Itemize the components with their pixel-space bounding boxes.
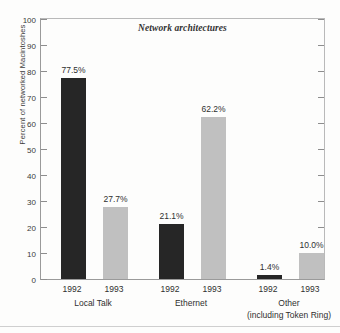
y-tick-right-60 [318,123,324,124]
y-tick-right-100 [318,19,324,20]
y-tick-80: 80 [41,71,47,72]
group-label-text: Ethernet [175,298,207,308]
x-axis-year-local-talk-1993: 1993 [105,284,124,294]
bar-value-label: 77.5% [61,65,85,75]
bar-ethernet-1993: 62.2% [201,117,226,279]
y-tick-right-20 [318,227,324,228]
y-tick-label-0: 0 [32,276,36,285]
group-label-text: Local Talk [74,298,112,308]
x-axis-group-local-talk: Local Talk [74,298,112,310]
bar-local-talk-1993: 27.7% [103,207,128,279]
page-rule-divider [0,326,340,327]
bar-value-label: 10.0% [299,240,323,250]
bar-ethernet-1992: 21.1% [159,224,184,279]
group-label-text: Other [278,298,299,308]
plot-area: Network architectures 100 90 80 70 60 50… [40,18,325,280]
y-tick-100: 100 [41,19,47,20]
bar-other-1993: 10.0% [299,253,324,279]
y-tick-label-50: 50 [27,146,36,155]
bar-chart-figure: Percent of networked Macintoshes Network… [0,0,340,333]
x-axis-year-other-1992: 1992 [259,284,278,294]
bar-value-label: 21.1% [159,211,183,221]
y-tick-label-100: 100 [23,16,36,25]
y-tick-label-90: 90 [27,42,36,51]
y-tick-20: 20 [41,227,47,228]
y-tick-label-30: 30 [27,198,36,207]
bar-local-talk-1992: 77.5% [61,78,86,280]
bar-value-label: 1.4% [260,262,279,272]
y-tick-label-70: 70 [27,94,36,103]
bar-value-label: 27.7% [103,194,127,204]
x-axis-year-local-talk-1992: 1992 [63,284,82,294]
y-tick-40: 40 [41,175,47,176]
y-tick-50: 50 [41,149,47,150]
y-tick-30: 30 [41,201,47,202]
y-tick-label-10: 10 [27,250,36,259]
bar-other-1992: 1.4% [257,275,282,279]
y-tick-70: 70 [41,97,47,98]
y-tick-right-90 [318,45,324,46]
chart-title: Network architectures [41,23,324,33]
y-tick-label-40: 40 [27,172,36,181]
y-tick-label-80: 80 [27,68,36,77]
x-axis-year-ethernet-1992: 1992 [161,284,180,294]
y-tick-label-20: 20 [27,224,36,233]
y-tick-right-30 [318,201,324,202]
y-tick-right-70 [318,97,324,98]
bar-value-label: 62.2% [201,104,225,114]
y-tick-90: 90 [41,45,47,46]
y-axis-title: Percent of networked Macintoshes [18,0,27,185]
x-axis-group-other: Other (including Token Ring) [247,298,331,321]
y-tick-right-40 [318,175,324,176]
x-axis-year-ethernet-1993: 1993 [203,284,222,294]
x-axis-year-other-1993: 1993 [301,284,320,294]
y-tick-60: 60 [41,123,47,124]
y-tick-label-60: 60 [27,120,36,129]
y-tick-right-50 [318,149,324,150]
y-tick-0: 0 [41,279,47,280]
y-tick-right-80 [318,71,324,72]
y-tick-10: 10 [41,253,47,254]
group-sublabel-text: (including Token Ring) [247,310,331,322]
x-axis-group-ethernet: Ethernet [175,298,207,310]
